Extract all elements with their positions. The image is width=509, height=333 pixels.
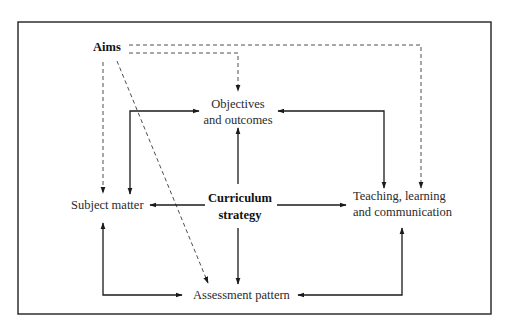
edge-aims-teaching bbox=[129, 45, 421, 188]
node-teaching-line1: Teaching, learning bbox=[353, 189, 447, 203]
edge-subject-assessment bbox=[103, 223, 182, 295]
edge-aims-objectives bbox=[129, 53, 238, 91]
node-assessment-pattern: Assessment pattern bbox=[193, 288, 291, 302]
node-curriculum-line2: strategy bbox=[218, 208, 262, 222]
node-aims: Aims bbox=[93, 40, 121, 54]
node-objectives-line1: Objectives bbox=[211, 97, 265, 111]
node-teaching-line2: and communication bbox=[353, 205, 453, 219]
curriculum-diagram: Aims Objectives and outcomes Curriculum … bbox=[0, 0, 509, 333]
edge-teaching-assessment bbox=[298, 228, 402, 295]
edge-teaching-objectives bbox=[278, 111, 384, 188]
diagram-frame bbox=[18, 22, 491, 314]
node-curriculum-line1: Curriculum bbox=[208, 191, 272, 205]
node-subject-matter: Subject matter bbox=[71, 198, 144, 212]
dashed-edges bbox=[103, 45, 421, 283]
node-objectives-line2: and outcomes bbox=[203, 113, 272, 127]
edge-subject-objectives bbox=[130, 111, 199, 194]
